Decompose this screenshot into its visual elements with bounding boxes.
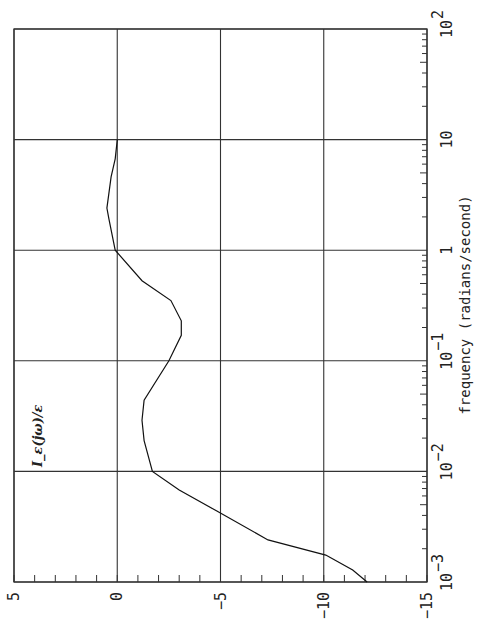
series-label: I_ε(jω)/ε bbox=[30, 404, 46, 468]
frequency-tick-label: 1 bbox=[438, 246, 456, 255]
value-tick-label: −5 bbox=[212, 592, 230, 610]
grid-lines bbox=[14, 29, 427, 582]
value-tick-label: 0 bbox=[108, 592, 126, 601]
frequency-axis-tick-labels: 10−310−210−1110102 bbox=[429, 10, 456, 591]
frequency-tick-label: 10−1 bbox=[429, 333, 456, 370]
svg-text:1: 1 bbox=[438, 246, 456, 255]
svg-text:10: 10 bbox=[438, 462, 456, 480]
value-tick-label: −15 bbox=[418, 592, 436, 619]
svg-text:10: 10 bbox=[438, 131, 456, 149]
svg-text:10: 10 bbox=[438, 20, 456, 38]
svg-text:−2: −2 bbox=[429, 443, 447, 461]
frequency-tick-label: 102 bbox=[429, 10, 456, 38]
svg-text:−3: −3 bbox=[429, 554, 447, 572]
value-tick-label: −10 bbox=[315, 592, 333, 619]
chart: 50−5−10−15 10−310−210−1110102 frequency … bbox=[0, 0, 491, 635]
svg-text:10: 10 bbox=[438, 573, 456, 591]
frequency-axis-title: frequency (radians/second) bbox=[457, 195, 473, 414]
value-axis-tick-labels: 50−5−10−15 bbox=[5, 592, 436, 619]
svg-text:2: 2 bbox=[429, 10, 447, 19]
frequency-tick-label: 10−3 bbox=[429, 554, 456, 591]
frequency-tick-label: 10 bbox=[438, 131, 456, 149]
svg-text:−1: −1 bbox=[429, 333, 447, 351]
value-tick-label: 5 bbox=[5, 592, 23, 601]
frequency-tick-label: 10−2 bbox=[429, 443, 456, 480]
svg-text:10: 10 bbox=[438, 352, 456, 370]
